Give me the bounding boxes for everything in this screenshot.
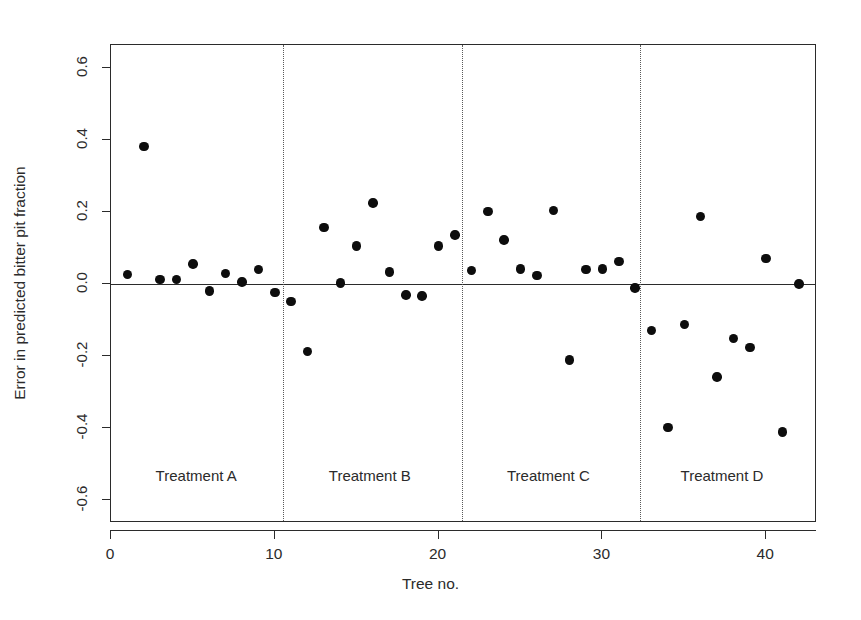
data-point	[254, 265, 264, 275]
data-point	[467, 266, 477, 276]
y-axis-tick-label: -0.6	[73, 483, 90, 513]
zero-line	[111, 284, 815, 285]
data-point	[729, 334, 739, 344]
y-axis-tick-label: 0.2	[73, 196, 90, 226]
x-axis-tick-label: 30	[593, 545, 610, 563]
data-point	[303, 347, 313, 357]
y-axis-tick	[102, 355, 110, 356]
data-point	[663, 423, 673, 433]
data-point	[647, 326, 657, 336]
y-axis-tick	[102, 211, 110, 212]
data-point	[417, 291, 427, 301]
group-label: Treatment C	[507, 467, 590, 484]
data-point	[352, 241, 362, 251]
x-axis-tick	[438, 530, 439, 539]
x-axis-tick	[601, 530, 602, 539]
group-label: Treatment A	[156, 467, 237, 484]
data-point	[745, 343, 755, 353]
data-point	[483, 207, 493, 217]
x-axis-tick-label: 20	[429, 545, 446, 563]
data-point	[319, 223, 329, 233]
group-divider-3	[640, 45, 641, 521]
group-divider-2	[462, 45, 463, 521]
data-point	[188, 259, 198, 269]
group-divider-1	[283, 45, 284, 521]
y-axis-tick	[102, 283, 110, 284]
y-axis-tick-label: -0.4	[73, 411, 90, 441]
y-axis-tick	[102, 67, 110, 68]
x-axis-tick	[274, 530, 275, 539]
data-point	[712, 372, 722, 382]
x-axis-tick	[110, 530, 111, 539]
x-axis-tick-label: 0	[106, 545, 115, 563]
x-axis-tick	[765, 530, 766, 539]
y-axis-tick-label: -0.2	[73, 339, 90, 369]
data-point	[532, 271, 542, 281]
x-axis-tick-label: 40	[757, 545, 774, 563]
data-point	[794, 279, 804, 289]
data-point	[630, 283, 640, 293]
y-axis-title: Error in predicted bitter pit fraction	[11, 166, 29, 399]
data-point	[155, 275, 165, 285]
x-axis-line	[110, 530, 816, 531]
y-axis-tick-label: 0.6	[73, 52, 90, 82]
data-point	[286, 297, 296, 307]
data-point	[450, 230, 460, 240]
y-axis-tick-label: 0.0	[73, 268, 90, 298]
data-point	[614, 257, 624, 267]
data-point	[778, 427, 788, 437]
data-point	[237, 277, 247, 287]
data-point	[581, 265, 591, 275]
y-axis-tick	[102, 139, 110, 140]
y-axis-tick	[102, 499, 110, 500]
data-point	[368, 198, 378, 208]
data-point	[761, 254, 771, 264]
group-label: Treatment D	[681, 467, 764, 484]
data-point	[123, 270, 133, 280]
scatter-plot-figure: Error in predicted bitter pit fraction 0…	[0, 0, 861, 620]
group-label: Treatment B	[329, 467, 411, 484]
plot-area: Treatment ATreatment BTreatment CTreatme…	[111, 45, 815, 521]
data-point	[499, 235, 509, 245]
data-point	[401, 290, 411, 300]
data-point	[565, 355, 575, 365]
data-point	[172, 275, 182, 285]
data-point	[221, 269, 231, 279]
y-axis-title-container: Error in predicted bitter pit fraction	[0, 44, 40, 522]
data-point	[696, 212, 706, 222]
data-point	[385, 267, 395, 277]
plot-frame: Treatment ATreatment BTreatment CTreatme…	[110, 44, 816, 522]
data-point	[205, 286, 215, 296]
data-point	[434, 241, 444, 251]
data-point	[680, 320, 690, 330]
x-axis-title: Tree no.	[0, 575, 861, 593]
data-point	[270, 288, 280, 298]
data-point	[336, 278, 346, 288]
y-axis-tick	[102, 427, 110, 428]
data-point	[598, 264, 608, 274]
y-axis-tick-label: 0.4	[73, 124, 90, 154]
x-axis-tick-label: 10	[265, 545, 282, 563]
data-point	[139, 142, 149, 152]
data-point	[549, 206, 559, 216]
data-point	[516, 264, 526, 274]
